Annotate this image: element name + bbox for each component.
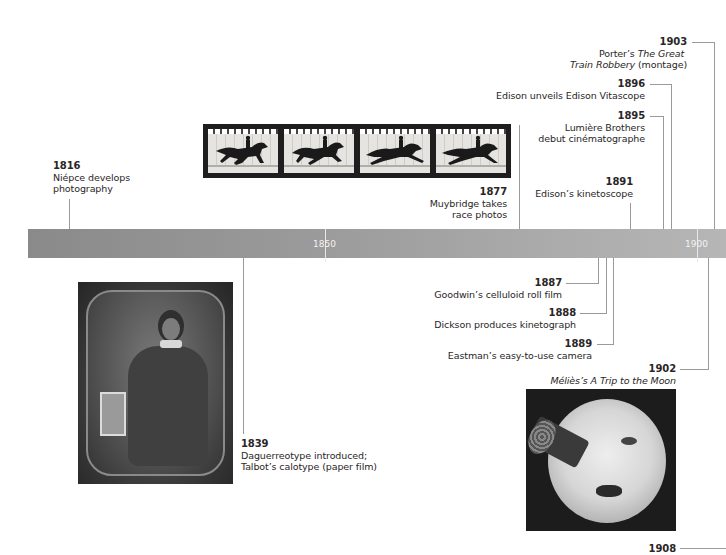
event-text: Talbot’s calotype (paper film) [241, 461, 377, 473]
event-text: Dickson produces kinetograph [434, 319, 576, 331]
event-year: 1903 [570, 36, 687, 48]
connector-1887-h [566, 283, 599, 284]
event-year: 1902 [550, 363, 676, 375]
event-year: 1839 [241, 438, 377, 450]
event-text: Niépce develops [53, 172, 130, 184]
event-year: 1895 [538, 110, 645, 122]
connector-1895-h [650, 116, 664, 117]
connector-1903-v [714, 42, 715, 229]
event-text: Daguerreotype introduced; [241, 450, 377, 462]
connector-1895-v [663, 116, 664, 229]
event-1888: 1888 Dickson produces kinetograph [434, 307, 576, 330]
connector-1902-h [680, 369, 709, 370]
film-title: Train Robbery [570, 59, 635, 70]
event-year: 1908 [649, 543, 676, 555]
event-1895: 1895 Lumière Brothers debut cinématograp… [538, 110, 645, 145]
connector-1896-v [671, 84, 672, 229]
event-text: Eastman’s easy-to-use camera [448, 350, 592, 362]
tick-label-1900: 1900 [685, 239, 708, 249]
event-text: Edison’s kinetoscope [535, 188, 633, 200]
trip-to-the-moon-still [526, 389, 676, 531]
film-title: A Trip to the Moon [591, 375, 676, 386]
connector-1908-h [680, 548, 726, 549]
connector-1889-v [613, 258, 614, 345]
event-text: race photos [430, 209, 507, 221]
event-year: 1816 [53, 160, 130, 172]
event-year: 1889 [448, 338, 592, 350]
connector-1888-v [606, 258, 607, 314]
connector-1903-h [692, 42, 715, 43]
film-frame [360, 129, 430, 173]
event-1903: 1903 Porter’s The Great Train Robbery (m… [570, 36, 687, 71]
film-frame [436, 129, 506, 173]
daguerreotype-portrait [78, 282, 233, 484]
event-year: 1888 [434, 307, 576, 319]
event-text: Lumière Brothers [538, 122, 645, 134]
connector-1877 [519, 125, 520, 229]
horse-icon [208, 129, 278, 173]
event-text: Muybridge takes [430, 198, 507, 210]
connector-1839 [243, 258, 244, 434]
connector-1891 [630, 203, 631, 229]
event-text: debut cinématographe [538, 133, 645, 145]
muybridge-horse-film-strip [203, 124, 511, 178]
timeline-bar [28, 229, 726, 258]
event-1902: 1902 Méliès’s A Trip to the Moon [550, 363, 676, 386]
film-frame [284, 129, 354, 173]
horse-icon [284, 129, 354, 173]
film-title: The Great [638, 48, 684, 59]
event-1908: 1908 [649, 543, 676, 555]
event-1891: 1891 Edison’s kinetoscope [535, 176, 633, 199]
event-1889: 1889 Eastman’s easy-to-use camera [448, 338, 592, 361]
event-1816: 1816 Niépce develops photography [53, 160, 130, 195]
connector-1888-h [580, 313, 607, 314]
event-year: 1891 [535, 176, 633, 188]
horse-icon [436, 129, 506, 173]
connector-1902-v [708, 258, 709, 370]
connector-1816 [69, 199, 70, 229]
event-1839: 1839 Daguerreotype introduced; Talbot’s … [241, 438, 377, 473]
connector-1887-v [598, 258, 599, 284]
event-text: photography [53, 183, 130, 195]
event-text: Goodwin’s celluloid roll film [434, 289, 562, 301]
film-frame [208, 129, 278, 173]
event-text: Porter’s [599, 48, 638, 59]
event-text: Edison unveils Edison Vitascope [496, 90, 645, 102]
event-1877: 1877 Muybridge takes race photos [430, 186, 507, 221]
event-year: 1896 [496, 78, 645, 90]
connector-1889-h [597, 344, 614, 345]
tick-label-1850: 1850 [313, 239, 336, 249]
event-1887: 1887 Goodwin’s celluloid roll film [434, 277, 562, 300]
event-text: Méliès’s [550, 375, 590, 386]
event-text: (montage) [635, 59, 687, 70]
horse-icon [360, 129, 430, 173]
event-1896: 1896 Edison unveils Edison Vitascope [496, 78, 645, 101]
event-year: 1887 [434, 277, 562, 289]
event-year: 1877 [430, 186, 507, 198]
connector-1896-h [650, 84, 672, 85]
